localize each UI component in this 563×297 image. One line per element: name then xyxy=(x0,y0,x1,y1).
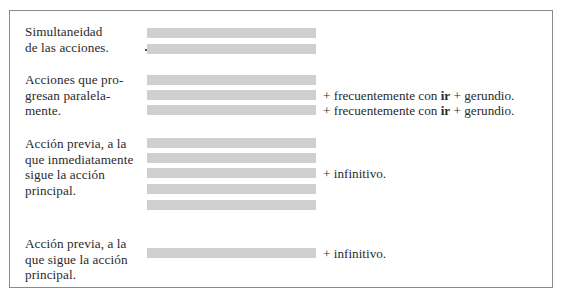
row-label-acciones-paralelas: Acciones que pro- gresan paralela- mente… xyxy=(25,72,123,119)
stray-dot xyxy=(145,49,147,51)
redacted-bar xyxy=(147,75,316,85)
redacted-bar xyxy=(147,138,316,148)
row-label-accion-previa: Acción previa, a la que sigue la acción … xyxy=(25,236,128,283)
redacted-bar xyxy=(147,105,316,115)
note-ir-gerundio: + frecuentemente con ir + gerundio. xyxy=(323,88,514,103)
redacted-bar xyxy=(147,168,316,178)
note-ir-gerundio: + frecuentemente con ir + gerundio. xyxy=(323,103,514,118)
row-label-simultaneidad: Simultaneidad de las acciones. xyxy=(25,24,109,55)
redacted-bar xyxy=(147,28,316,38)
redacted-bar xyxy=(147,200,316,210)
redacted-bar xyxy=(147,248,316,258)
redacted-bar xyxy=(147,184,316,194)
note-infinitivo: + infinitivo. xyxy=(323,166,386,181)
row-label-accion-previa-inmediata: Acción previa, a la que inmediatamente s… xyxy=(25,136,133,198)
note-infinitivo: + infinitivo. xyxy=(323,246,386,261)
redacted-bar xyxy=(147,44,316,54)
redacted-bar xyxy=(147,153,316,163)
redacted-bar xyxy=(147,90,316,100)
